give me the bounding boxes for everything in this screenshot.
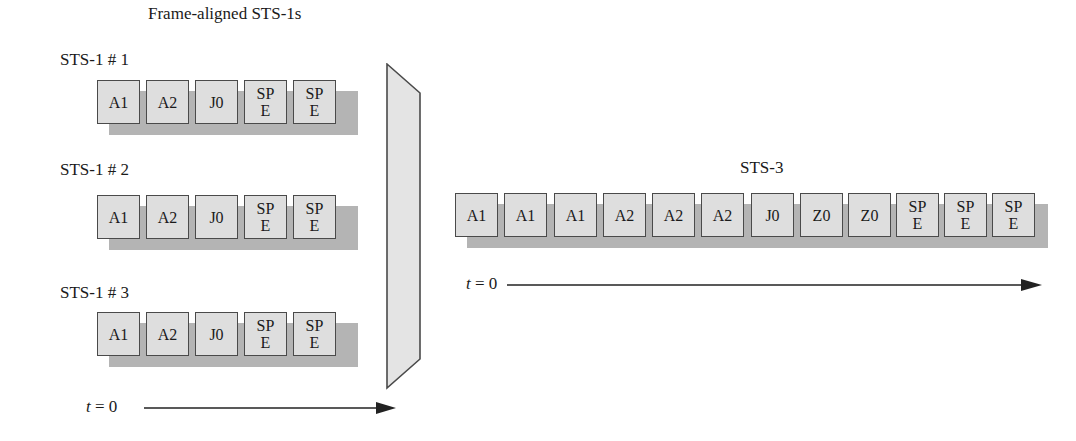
frame-cell: A1: [554, 193, 597, 237]
frame-cell: A1: [504, 193, 547, 237]
frame-cell: J0: [195, 80, 238, 124]
frame-cell: A2: [701, 193, 744, 237]
frame-cell: A1: [97, 195, 140, 239]
stream-2-label: STS-1 # 2: [60, 160, 129, 180]
frame-cell: A1: [455, 193, 498, 237]
frame-cell: SP E: [244, 195, 287, 239]
frame-cell: Z0: [848, 193, 891, 237]
frame-cell: J0: [751, 193, 794, 237]
frame-cell: SP E: [293, 80, 336, 124]
left-time-arrow: [140, 400, 400, 416]
multiplexer-shape: [386, 63, 426, 393]
frame-cell: A1: [97, 312, 140, 356]
left-time-label: t = 0: [86, 397, 117, 417]
frame-cell: Z0: [800, 193, 843, 237]
frame-cell: A1: [97, 80, 140, 124]
right-time-label: t = 0: [466, 274, 497, 294]
frame-cell: SP E: [992, 193, 1035, 237]
frame-cell: J0: [195, 312, 238, 356]
stream-1-label: STS-1 # 1: [60, 50, 129, 70]
sts3-frame: A1 A1 A1 A2 A2 A2 J0 Z0 Z0 SP E SP E SP …: [455, 193, 1055, 239]
frame-cell: J0: [195, 195, 238, 239]
right-time-arrow: [505, 277, 1045, 293]
frame-cell: SP E: [293, 312, 336, 356]
frame-cell: A2: [146, 80, 189, 124]
frame-cell: SP E: [244, 80, 287, 124]
frame-cell: A2: [603, 193, 646, 237]
stream-1-frame: A1 A2 J0 SP E SP E: [97, 80, 357, 126]
stream-2-frame: A1 A2 J0 SP E SP E: [97, 195, 357, 241]
frame-cell: SP E: [896, 193, 939, 237]
stream-3-frame: A1 A2 J0 SP E SP E: [97, 312, 357, 358]
frame-cell: SP E: [293, 195, 336, 239]
frame-cell: SP E: [244, 312, 287, 356]
frame-cell: A2: [652, 193, 695, 237]
right-panel-title: STS-3: [740, 158, 783, 178]
frame-cell: A2: [146, 312, 189, 356]
left-panel-title: Frame-aligned STS-1s: [148, 4, 301, 24]
frame-cell: A2: [146, 195, 189, 239]
stream-3-label: STS-1 # 3: [60, 283, 129, 303]
frame-cell: SP E: [944, 193, 987, 237]
